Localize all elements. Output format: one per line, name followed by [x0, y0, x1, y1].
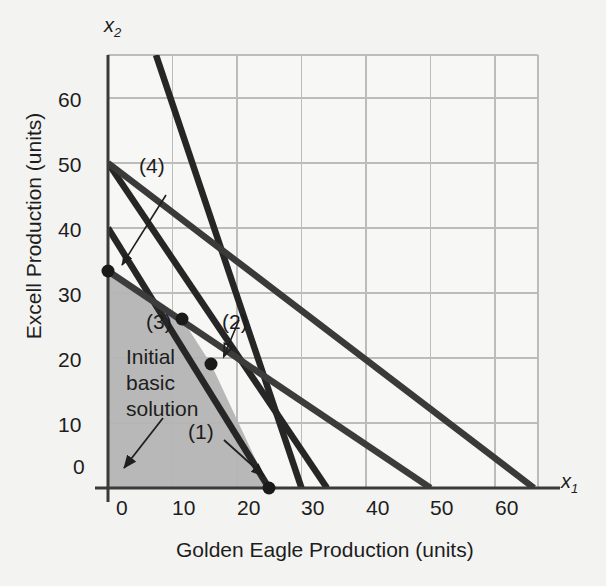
vertex-marker — [205, 358, 218, 371]
vertex-marker — [176, 313, 189, 326]
vertex-marker — [263, 482, 276, 495]
figure-container: 60 50 40 30 20 10 0 0 10 20 30 40 50 60 … — [0, 0, 606, 586]
chart-canvas — [0, 0, 606, 586]
vertex-marker — [102, 265, 115, 278]
